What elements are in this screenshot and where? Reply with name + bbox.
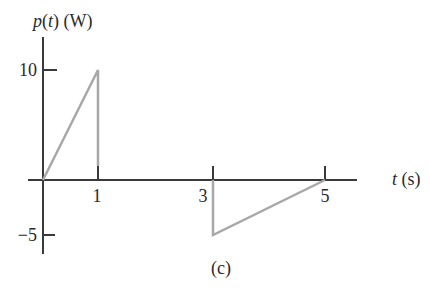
y-axis-label: p(t) (W) — [31, 11, 93, 32]
power-waveform-chart: p(t) (W) 10 −5 1 3 5 t (s) (c) — [0, 0, 430, 299]
x-tick-label-5: 5 — [321, 186, 330, 206]
y-tick-label-10: 10 — [19, 60, 37, 80]
x-axis-label: t (s) — [392, 169, 421, 190]
y-tick-label-minus5: −5 — [18, 225, 37, 245]
x-tick-label-3: 3 — [199, 186, 208, 206]
x-tick-label-1: 1 — [93, 186, 102, 206]
power-trace-positive — [43, 70, 98, 180]
power-trace-negative — [213, 180, 325, 235]
figure-caption: (c) — [211, 258, 231, 279]
